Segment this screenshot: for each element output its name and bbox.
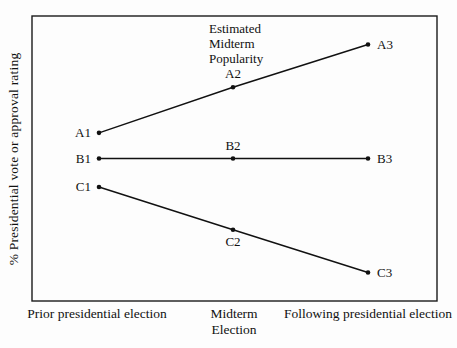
point-C3: [366, 270, 371, 275]
x-axis-label-line: Following presidential election: [284, 306, 452, 322]
point-label-B2: B2: [225, 138, 240, 153]
point-B2: [231, 156, 236, 161]
x-axis-label-line: Election: [210, 322, 257, 338]
point-C1: [97, 185, 102, 190]
annotation-line: Estimated: [209, 21, 263, 36]
series-layer: A1A2A3B1B2B3C1C2C3: [75, 37, 393, 280]
point-label-C3: C3: [377, 265, 392, 280]
x-axis-label-following: Following presidential election: [284, 306, 452, 322]
point-B1: [97, 156, 102, 161]
point-A3: [366, 42, 371, 47]
point-B3: [366, 156, 371, 161]
annotation-estimated-midterm-popularity: Estimated Midterm Popularity: [209, 21, 263, 66]
point-A2: [231, 85, 236, 90]
point-label-A2: A2: [225, 66, 241, 81]
x-axis-label-midterm: Midterm Election: [210, 306, 257, 338]
x-axis-label-prior: Prior presidential election: [27, 306, 166, 322]
point-label-C1: C1: [76, 179, 91, 194]
point-label-B3: B3: [377, 151, 392, 166]
point-C2: [231, 227, 236, 232]
x-axis-label-line: Midterm: [210, 306, 257, 322]
point-label-C2: C2: [225, 234, 240, 249]
figure: % Presidential vote or approval rating A…: [0, 0, 457, 348]
point-label-A3: A3: [377, 37, 393, 52]
point-label-B1: B1: [76, 151, 91, 166]
x-axis-label-line: Prior presidential election: [27, 306, 166, 322]
annotation-line: Midterm: [209, 36, 263, 51]
point-A1: [97, 131, 102, 136]
point-label-A1: A1: [75, 125, 91, 140]
annotation-line: Popularity: [209, 51, 263, 66]
